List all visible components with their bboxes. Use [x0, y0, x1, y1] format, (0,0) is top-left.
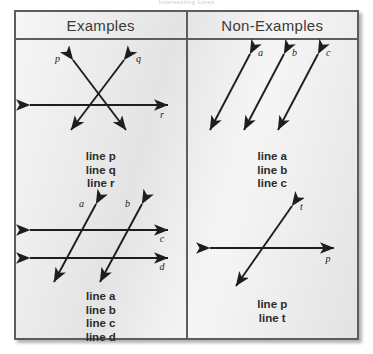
column-header-non-examples: Non-Examples: [188, 12, 358, 38]
label-line-p2: p: [324, 253, 330, 264]
figure-lines-t-p: t p: [188, 200, 358, 296]
parallel-line-b-stroke: [244, 54, 284, 130]
line-q-stroke: [71, 60, 124, 130]
caption-line-r: line r: [16, 177, 186, 191]
label-line-p: p: [54, 53, 60, 64]
figure-lines-a-b-c-d: a b c d: [16, 198, 186, 290]
caption-lines-a-b-c-d: line a line b line c line d: [16, 290, 186, 344]
caption-line-t: line t: [188, 312, 358, 326]
column-examples: p q r line p line q line r: [16, 40, 188, 338]
caption-parallel-lines-a-b-c: line a line b line c: [188, 150, 358, 191]
caption-line-b: line b: [16, 304, 186, 318]
line-t-stroke: [236, 206, 292, 286]
label-line-d: d: [160, 261, 166, 272]
label-line-r: r: [160, 109, 164, 120]
caption-line-p: line p: [16, 150, 186, 164]
label-parallel-line-a: a: [258, 47, 263, 58]
label-line-b: b: [125, 198, 130, 209]
caption-lines-p-t: line p line t: [188, 298, 358, 325]
parallel-line-a-stroke: [210, 54, 250, 130]
label-line-c: c: [160, 233, 165, 244]
caption-lines-p-q-r: line p line q line r: [16, 150, 186, 191]
caption-line-d: line d: [16, 331, 186, 345]
table-header-row: Examples Non-Examples: [16, 12, 357, 40]
label-parallel-line-b: b: [292, 47, 297, 58]
column-non-examples: a b c line a line b line c t p: [188, 40, 358, 338]
label-line-q: q: [136, 53, 141, 64]
line-b-stroke: [100, 204, 142, 282]
table-body-row: p q r line p line q line r: [16, 40, 357, 338]
caption-line-c: line c: [16, 317, 186, 331]
caption-line-q: line q: [16, 164, 186, 178]
label-parallel-line-c: c: [326, 47, 331, 58]
line-p-stroke: [73, 60, 126, 130]
label-line-t: t: [300, 201, 303, 212]
caption-parallel-line-b: line b: [188, 164, 358, 178]
caption-line-p2: line p: [188, 298, 358, 312]
caption-parallel-line-c: line c: [188, 177, 358, 191]
examples-non-examples-card: Examples Non-Examples: [14, 10, 359, 340]
caption-line-a: line a: [16, 290, 186, 304]
figure-lines-p-q-r: p q r: [16, 42, 186, 150]
page-title: Intersecting Lines: [0, 0, 373, 6]
parallel-line-c-stroke: [278, 54, 318, 130]
line-a-stroke: [54, 204, 96, 282]
label-line-a: a: [79, 198, 84, 209]
figure-parallel-lines-a-b-c: a b c: [188, 42, 358, 150]
caption-parallel-line-a: line a: [188, 150, 358, 164]
column-header-examples: Examples: [16, 12, 188, 38]
